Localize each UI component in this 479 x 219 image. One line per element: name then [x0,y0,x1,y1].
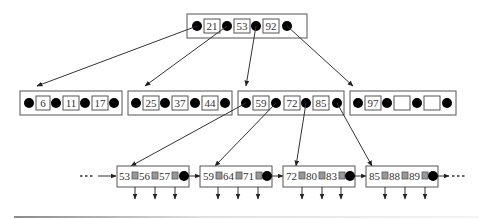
internal-key: 25 [146,97,158,109]
leaf-node: 53 56 57 [117,166,189,187]
root-key: 92 [266,20,277,32]
leaf-node: 72 80 83 [283,166,355,187]
leaf-node: 59 64 71 [200,166,272,187]
internal-key: 6 [40,97,46,109]
leaf-key: 59 [203,170,215,182]
leaf-key: 64 [223,170,235,182]
leaf-key: 72 [286,170,297,182]
leaf-key: 53 [119,170,131,182]
b-plus-tree-diagram: 21 53 92 6 11 17 25 37 44 [0,0,479,219]
record-pointer-arrows [135,187,425,199]
root-key: 53 [237,20,249,32]
leaf-key: 56 [139,170,151,182]
edge-arrow [287,26,353,86]
leaf-key: 88 [389,170,401,182]
internal-key: 72 [287,97,298,109]
leaf-key: 80 [306,170,318,182]
internal-node: 6 11 17 [20,91,122,115]
leaf-node: 85 88 89 [366,166,438,187]
internal-key: 59 [256,97,268,109]
edge-arrow [37,26,197,86]
leaf-key: 89 [409,170,421,182]
internal-key: 44 [205,97,217,109]
internal-key: 11 [66,97,77,109]
leaf-key: 57 [159,170,171,182]
internal-node: 97 [350,91,456,115]
leaf-key: 85 [369,170,381,182]
internal-key: 97 [368,97,380,109]
leaf-key: 83 [326,170,338,182]
bottom-divider [14,216,479,218]
internal-node: 25 37 44 [128,91,232,115]
root-key: 21 [207,20,218,32]
internal-key: 37 [175,97,187,109]
edge-arrow [145,26,227,86]
leaf-key: 71 [243,170,254,182]
internal-key: 17 [95,97,107,109]
internal-key: 85 [316,97,328,109]
internal-node: 59 72 85 [238,91,344,115]
root-node: 21 53 92 [187,14,307,38]
